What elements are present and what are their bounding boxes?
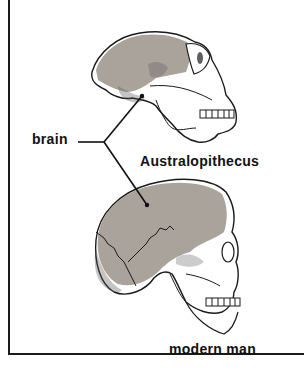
modern-man-skull xyxy=(95,179,240,334)
australopithecus-skull xyxy=(92,32,237,142)
skull-comparison-illustration xyxy=(0,0,304,370)
brain-label: brain xyxy=(32,131,68,147)
modern-man-label: modern man xyxy=(169,341,256,357)
australopithecus-label: Australopithecus xyxy=(140,153,259,169)
